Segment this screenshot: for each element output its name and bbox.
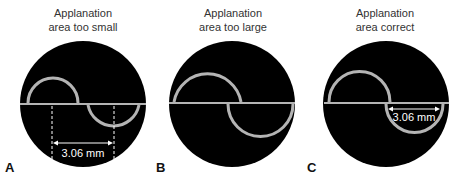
- panel-a-letter: A: [5, 160, 14, 175]
- panel-c-letter: C: [307, 160, 316, 175]
- panel-a-disc: 3.06 mm: [20, 41, 146, 167]
- panel-b-letter: B: [156, 160, 165, 175]
- applanation-diagram: 3.06 mm 3.06 mm: [0, 0, 457, 178]
- panel-a-measurement: 3.06 mm: [62, 147, 105, 159]
- panel-c-measurement: 3.06 mm: [393, 111, 436, 123]
- panel-c-disc: 3.06 mm: [323, 41, 449, 167]
- panel-b-disc: [169, 41, 295, 167]
